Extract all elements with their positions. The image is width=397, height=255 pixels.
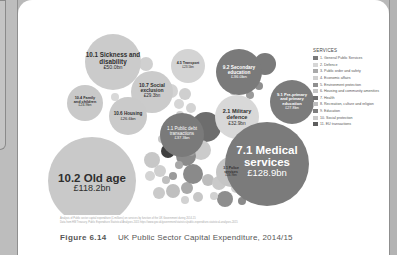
legend-swatch	[313, 102, 318, 106]
legend-swatch	[313, 96, 318, 100]
legend-item: 4. Economic affairs	[313, 75, 393, 82]
label-public-debt: 1.1 Public debt transactions £37.3bn	[167, 127, 197, 141]
source-note: Analysis of Public sector capital expend…	[60, 217, 360, 225]
bubble-chart: 10.1 Sickness and disability £50.0bn 4.5…	[18, 0, 389, 215]
label-sickness-disability: 10.1 Sickness and disability £50.0bn	[86, 52, 140, 71]
legend-item: 9. Education	[313, 108, 393, 115]
left-page-tab	[0, 0, 6, 150]
legend-swatch	[313, 83, 318, 87]
label-social-exclusion: 10.7 Social exclusion £29.3bn	[139, 83, 165, 98]
label-secondary-education: 9.2 Secondary education £36.0bn	[223, 65, 256, 80]
legend-item: 8. Recreation, culture and religion	[313, 101, 393, 108]
book-page: 10.1 Sickness and disability £50.0bn 4.5…	[18, 0, 389, 255]
legend-item: 5. Environment protection	[313, 81, 393, 88]
label-primary-education: 9.1 Pre-primary and primary education £2…	[277, 93, 307, 110]
legend-swatch	[313, 109, 318, 113]
legend-swatch	[313, 56, 318, 60]
label-medical-services: 7.1 Medical services £128.9bn	[236, 144, 297, 178]
legend-item: 11. EU transactions	[313, 121, 393, 128]
figure-number: Figure 6.14	[60, 233, 107, 242]
legend-item: 7. Health	[313, 95, 393, 102]
legend-swatch	[313, 89, 318, 93]
legend-swatch	[313, 76, 318, 80]
figure-caption: Figure 6.14 UK Public Sector Capital Exp…	[60, 233, 293, 242]
legend-item: 2. Defence	[313, 62, 393, 69]
label-old-age: 10.2 Old age £118.2bn	[58, 172, 126, 194]
legend-swatch	[313, 69, 318, 73]
label-transport: 4.5 Transport £23.5bn	[177, 62, 200, 69]
figure-title: UK Public Sector Capital Expenditure, 20…	[118, 233, 293, 242]
chart-legend: SERVICES 1. General Public Services 2. D…	[313, 48, 393, 128]
legend-item: 3. Public order and safety	[313, 68, 393, 75]
legend-swatch	[313, 122, 318, 126]
label-military-defence: 2.1 Military defence £32.9bn	[223, 109, 251, 126]
legend-item: 6. Housing and community amenities	[313, 88, 393, 95]
legend-swatch	[313, 63, 318, 67]
legend-item: 1. General Public Services	[313, 55, 393, 62]
label-housing: 10.6 Housing £26.6bn	[114, 112, 143, 121]
legend-swatch	[313, 116, 318, 120]
legend-item: 10. Social protection	[313, 114, 393, 121]
legend-title: SERVICES	[313, 48, 393, 53]
label-family-children: 10.4 Family and children £24.9bn	[74, 96, 97, 108]
